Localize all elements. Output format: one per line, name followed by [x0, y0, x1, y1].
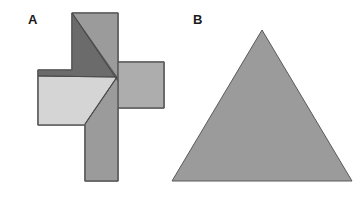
panel-label-a: A: [28, 12, 38, 27]
cross-piece-right-arm: [118, 62, 164, 108]
panel-label-b: B: [193, 12, 202, 27]
figure-root: A B: [0, 0, 363, 219]
dissection-figure: A B: [0, 0, 363, 219]
